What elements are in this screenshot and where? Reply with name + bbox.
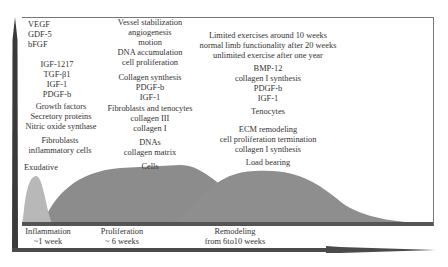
phase-name: Inflammation [18,227,78,237]
phase-duration: ~ 6 weeks [92,237,152,247]
label-secretory-proteins: Secretory proteins [22,112,100,122]
horizontal-axis-arrow [326,246,436,253]
label-pdgfb: PDGF-b [228,84,308,94]
remodeling-factors: BMP-12 collagen I synthesis PDGF-b IGF-1 [228,64,308,104]
inflammation-cells: Fibroblasts inflammatory cells [22,136,98,156]
inflammation-products: Growth factors Secretory proteins Nitric… [22,102,100,132]
phase-duration: from 6to10 weeks [196,237,274,247]
label-bfgf: bFGF [28,40,52,50]
phase-remodeling: Remodeling from 6to10 weeks [196,227,274,247]
label-normal-limb-functionality: normal limb functionality after 20 weeks [188,41,348,51]
phase-inflammation: Inflammation ~1 week [18,227,78,247]
phase-name: Proliferation [92,227,152,237]
label-igf1: IGF-1 [96,93,204,103]
load-bearing-label: Load bearing [228,158,308,168]
label-collagen-matrix: collagen matrix [96,148,204,158]
label-vegf: VEGF [28,20,52,30]
label-collagen-i-synthesis: collagen I synthesis [228,74,308,84]
label-gdf5: GDF-5 [28,30,52,40]
label-bmp12: BMP-12 [228,64,308,74]
label-cell-proliferation-termination: cell proliferation termination [208,135,328,145]
label-ecm-remodeling: ECM remodeling [208,125,328,135]
label-collagen-i: collagen I [96,124,204,134]
label-limited-exercises: Limited exercises around 10 weeks [188,31,348,41]
inflammation-growth-list-2: IGF-1217 TGF-β1 IGF-1 PDGF-b [22,60,92,100]
tenocytes-label: Tenocytes [228,107,308,117]
remodeling-exercise: Limited exercises around 10 weeks normal… [188,31,348,61]
label-tgfb1: TGF-β1 [22,70,92,80]
label-pdgfb: PDGF-b [96,83,204,93]
proliferation-cells: Fibroblasts and tenocytes collagen III c… [96,104,204,134]
label-igf1: IGF-1 [22,80,92,90]
label-fibroblasts: Fibroblasts [22,136,98,146]
exudative-label: Exudative [24,163,58,173]
inflammation-growth-list: VEGF GDF-5 bFGF [28,20,52,50]
label-fibroblasts-tenocytes: Fibroblasts and tenocytes [96,104,204,114]
label-collagen-synthesis: Collagen synthesis [96,73,204,83]
label-pdgfb: PDGF-b [22,90,92,100]
label-vessel-stabilization: Vessel stabilization [96,18,204,28]
phase-proliferation: Proliferation ~ 6 weeks [92,227,152,247]
proliferation-matrix: DNAs collagen matrix [96,138,204,158]
label-dnas: DNAs [96,138,204,148]
vertical-axis-arrow [12,17,18,251]
label-collagen-iii: collagen III [96,114,204,124]
label-igf1: IGF-1 [228,94,308,104]
label-collagen-i-synthesis: collagen I synthesis [208,145,328,155]
label-nitric-oxide-synthase: Nitric oxide synthase [22,122,100,132]
label-unlimited-exercise: unlimited exercise after one year [188,51,348,61]
phase-name: Remodeling [196,227,274,237]
label-igf1217: IGF-1217 [22,60,92,70]
bottom-axis-bar [12,248,328,252]
cells-label: Cells [96,162,204,172]
proliferation-synthesis: Collagen synthesis PDGF-b IGF-1 [96,73,204,103]
phase-duration: ~1 week [18,237,78,247]
remodeling-processes: ECM remodeling cell proliferation termin… [208,125,328,155]
label-growth-factors: Growth factors [22,102,100,112]
label-inflammatory-cells: inflammatory cells [22,146,98,156]
